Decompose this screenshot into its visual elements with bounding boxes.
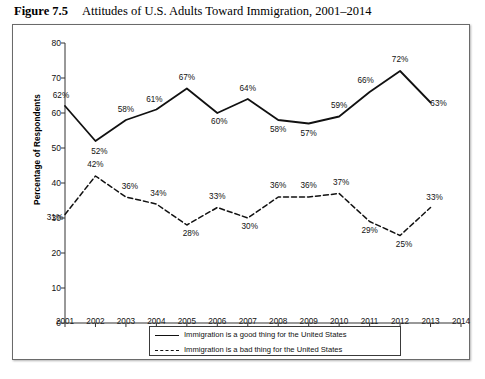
data-label: 72% (385, 55, 415, 64)
legend-label-good: Immigration is a good thing for the Unit… (184, 330, 347, 339)
chart-svg (13, 25, 471, 361)
data-label: 36% (263, 181, 293, 190)
figure-title: Attitudes of U.S. Adults Toward Immigrat… (82, 4, 372, 18)
data-label: 60% (204, 117, 234, 126)
data-label: 34% (143, 189, 173, 198)
figure-caption: Figure 7.5Attitudes of U.S. Adults Towar… (14, 4, 474, 24)
data-label: 67% (172, 73, 202, 82)
legend-key-dashed-line-icon (150, 343, 184, 357)
data-label: 61% (139, 95, 169, 104)
data-label: 36% (294, 181, 324, 190)
figure-number: Figure 7.5 (14, 4, 68, 18)
data-label: 58% (263, 125, 293, 134)
legend-label-bad: Immigration is a bad thing for the Unite… (184, 345, 342, 354)
figure-container: Figure 7.5Attitudes of U.S. Adults Towar… (0, 0, 485, 379)
chart-legend: Immigration is a good thing for the Unit… (149, 326, 401, 356)
plot-area: Percentage of Respondents 01020304050607… (13, 25, 471, 361)
legend-entry-good: Immigration is a good thing for the Unit… (150, 327, 400, 342)
data-label: 33% (202, 192, 232, 201)
data-label: 64% (233, 84, 263, 93)
legend-key-solid-line-icon (150, 328, 184, 342)
data-label: 30% (235, 222, 265, 231)
data-label: 59% (324, 101, 354, 110)
data-label: 25% (389, 240, 419, 249)
data-label: 33% (420, 193, 450, 202)
data-label: 58% (111, 105, 141, 114)
data-label: 57% (294, 129, 324, 138)
data-label: 42% (80, 160, 110, 169)
data-label: 29% (355, 226, 385, 235)
data-label: 63% (424, 99, 454, 108)
data-label: 31% (40, 213, 70, 222)
chart-panel: Percentage of Respondents 01020304050607… (12, 24, 470, 360)
legend-entry-bad: Immigration is a bad thing for the Unite… (150, 342, 400, 357)
data-label: 52% (84, 147, 114, 156)
data-label: 28% (176, 229, 206, 238)
data-label: 62% (46, 91, 76, 100)
data-label: 66% (351, 76, 381, 85)
data-label: 37% (326, 178, 356, 187)
data-label: 36% (115, 182, 145, 191)
